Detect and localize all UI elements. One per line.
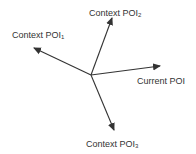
label-context-poi2: Context POI2 — [89, 8, 141, 21]
label-text: Context POI — [89, 8, 138, 18]
label-text: Current POI — [137, 76, 185, 86]
label-context-poi3: Context POI3 — [86, 139, 138, 152]
label-subscript: 3 — [135, 143, 138, 149]
label-text: Context POI — [86, 139, 135, 149]
arrow-current-poi — [91, 66, 160, 75]
label-current-poi: Current POI — [137, 76, 185, 87]
arrow-context-poi2 — [91, 18, 112, 75]
poi-vector-diagram: Context POI2 Context POI1 Current POI Co… — [0, 0, 196, 154]
label-subscript: 2 — [138, 12, 141, 18]
arrow-context-poi1 — [34, 48, 91, 75]
label-subscript: 1 — [61, 34, 64, 40]
arrow-context-poi3 — [91, 75, 114, 130]
label-context-poi1: Context POI1 — [12, 30, 64, 43]
label-text: Context POI — [12, 30, 61, 40]
